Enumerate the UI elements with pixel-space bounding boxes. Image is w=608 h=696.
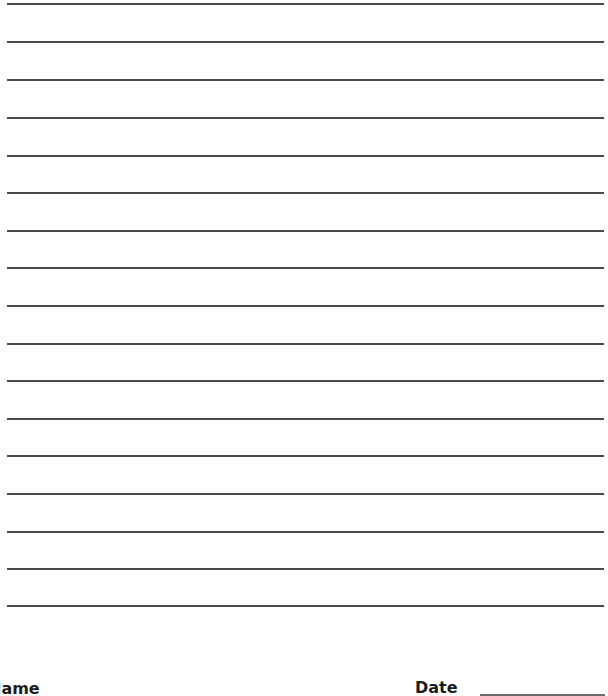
writing-line[interactable] (7, 230, 604, 232)
writing-line[interactable] (7, 455, 604, 457)
writing-line[interactable] (7, 418, 604, 420)
writing-line[interactable] (7, 380, 604, 382)
date-field-line[interactable] (480, 694, 605, 696)
writing-line[interactable] (7, 493, 604, 495)
writing-line[interactable] (7, 3, 604, 5)
writing-line[interactable] (7, 343, 604, 345)
writing-line[interactable] (7, 192, 604, 194)
writing-line[interactable] (7, 79, 604, 81)
name-label: Name (0, 681, 40, 696)
writing-line[interactable] (7, 155, 604, 157)
writing-line[interactable] (7, 605, 604, 607)
writing-line[interactable] (7, 568, 604, 570)
date-label: Date (415, 680, 458, 696)
writing-line[interactable] (7, 305, 604, 307)
writing-line[interactable] (7, 531, 604, 533)
writing-line[interactable] (7, 41, 604, 43)
writing-line[interactable] (7, 117, 604, 119)
ruled-writing-area (0, 0, 608, 620)
writing-line[interactable] (7, 267, 604, 269)
